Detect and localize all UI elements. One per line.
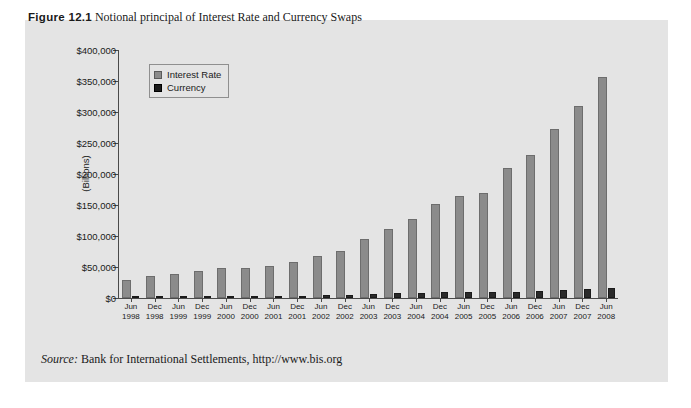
bar-currency[interactable] [251, 296, 258, 298]
legend-label-interest-rate: Interest Rate [167, 69, 221, 80]
bar-currency[interactable] [489, 292, 496, 298]
x-axis-tick-label: Dec2005 [475, 302, 499, 322]
bar-group[interactable] [285, 50, 309, 298]
bar-currency[interactable] [323, 295, 330, 298]
bar-currency[interactable] [536, 291, 543, 298]
chart-legend: Interest Rate Currency [149, 64, 229, 98]
bar-group[interactable] [571, 50, 595, 298]
x-axis-labels: Jun1998Dec1998Jun1999Dec1999Jun2000Dec20… [119, 302, 618, 322]
bar-currency[interactable] [132, 296, 139, 298]
bar-interest-rate[interactable] [550, 129, 559, 298]
figure-caption-text: Notional principal of Interest Rate and … [95, 10, 362, 24]
bar-currency[interactable] [370, 294, 377, 298]
bar-group[interactable] [262, 50, 286, 298]
bar-currency[interactable] [441, 292, 448, 298]
bar-currency[interactable] [418, 293, 425, 298]
x-axis-tick-label: Jun2004 [404, 302, 428, 322]
bar-interest-rate[interactable] [217, 268, 226, 298]
bar-group[interactable] [594, 50, 618, 298]
bar-interest-rate[interactable] [455, 196, 464, 298]
x-axis-tick-label: Dec2004 [428, 302, 452, 322]
bar-group[interactable] [119, 50, 143, 298]
bar-interest-rate[interactable] [313, 256, 322, 298]
bar-currency[interactable] [513, 292, 520, 298]
bar-group[interactable] [547, 50, 571, 298]
legend-item-interest-rate: Interest Rate [154, 68, 221, 81]
bar-group[interactable] [452, 50, 476, 298]
x-axis-tick-label: Jun1998 [119, 302, 143, 322]
bar-interest-rate[interactable] [336, 251, 345, 298]
x-axis-tick-label: Jun2006 [499, 302, 523, 322]
y-axis-tick-label: $100,000 [76, 231, 116, 242]
bar-interest-rate[interactable] [431, 204, 440, 298]
figure-number: Figure 12.1 [28, 11, 92, 23]
bar-currency[interactable] [394, 293, 401, 298]
bar-interest-rate[interactable] [289, 262, 298, 298]
bar-group[interactable] [309, 50, 333, 298]
x-axis-tick-label: Jun2000 [214, 302, 238, 322]
bar-interest-rate[interactable] [170, 274, 179, 298]
bar-interest-rate[interactable] [479, 193, 488, 298]
bar-currency[interactable] [560, 290, 567, 298]
legend-swatch-icon-interest-rate [154, 71, 162, 79]
source-label: Source: [41, 352, 78, 366]
bar-interest-rate[interactable] [360, 239, 369, 298]
bar-currency[interactable] [180, 296, 187, 298]
chart-plot-area: $0$50,000$100,000$150,000$200,000$250,00… [118, 50, 618, 318]
bar-interest-rate[interactable] [384, 229, 393, 298]
bar-interest-rate[interactable] [598, 77, 607, 298]
bar-interest-rate[interactable] [503, 168, 512, 298]
y-axis-tick-label: $400,000 [76, 45, 116, 56]
x-axis-tick-label: Dec2002 [333, 302, 357, 322]
bar-interest-rate[interactable] [408, 219, 417, 298]
x-axis-tick-label: Jun2008 [594, 302, 618, 322]
y-axis-tick-label: $50,000 [82, 262, 116, 273]
bar-currency[interactable] [275, 296, 282, 298]
bar-group[interactable] [475, 50, 499, 298]
y-axis-tick-label: $300,000 [76, 107, 116, 118]
bar-group[interactable] [238, 50, 262, 298]
x-axis-tick-label: Dec1999 [190, 302, 214, 322]
bar-group[interactable] [428, 50, 452, 298]
x-axis-tick-label: Dec2001 [285, 302, 309, 322]
bar-currency[interactable] [299, 296, 306, 298]
y-axis-title: (Billions) [80, 129, 91, 219]
bar-interest-rate[interactable] [241, 268, 250, 298]
source-text: Bank for International Settlements, http… [81, 352, 342, 366]
bar-interest-rate[interactable] [194, 271, 203, 298]
bar-currency[interactable] [608, 288, 615, 298]
x-axis-tick-label: Dec2007 [571, 302, 595, 322]
y-axis-tick-label: $350,000 [76, 76, 116, 87]
x-axis-tick-label: Dec1998 [143, 302, 167, 322]
bar-group[interactable] [523, 50, 547, 298]
bar-currency[interactable] [227, 296, 234, 298]
figure-caption: Figure 12.1 Notional principal of Intere… [28, 10, 628, 25]
bar-group[interactable] [380, 50, 404, 298]
x-axis-tick-label: Dec2003 [380, 302, 404, 322]
x-axis-tick-label: Jun2003 [357, 302, 381, 322]
bar-interest-rate[interactable] [122, 280, 131, 298]
bar-currency[interactable] [346, 295, 353, 298]
bar-interest-rate[interactable] [574, 106, 583, 298]
bar-currency[interactable] [465, 292, 472, 298]
bar-group[interactable] [357, 50, 381, 298]
x-axis-tick-label: Dec2000 [238, 302, 262, 322]
source-note: Source: Bank for International Settlemen… [41, 352, 342, 367]
bar-currency[interactable] [584, 289, 591, 298]
bar-currency[interactable] [204, 296, 211, 298]
bar-group[interactable] [404, 50, 428, 298]
y-axis-tick-label: $0 [105, 293, 116, 304]
bar-interest-rate[interactable] [265, 266, 274, 298]
bar-interest-rate[interactable] [526, 155, 535, 298]
x-axis-tick-label: Jun2005 [452, 302, 476, 322]
x-axis-tick-label: Jun2001 [262, 302, 286, 322]
legend-swatch-icon-currency [154, 84, 162, 92]
bar-currency[interactable] [156, 296, 163, 298]
x-axis-tick-label: Jun2002 [309, 302, 333, 322]
x-axis-tick-label: Jun2007 [547, 302, 571, 322]
bar-group[interactable] [333, 50, 357, 298]
x-axis-tick-label: Jun1999 [167, 302, 191, 322]
legend-label-currency: Currency [167, 82, 206, 93]
bar-interest-rate[interactable] [146, 276, 155, 298]
bar-group[interactable] [499, 50, 523, 298]
